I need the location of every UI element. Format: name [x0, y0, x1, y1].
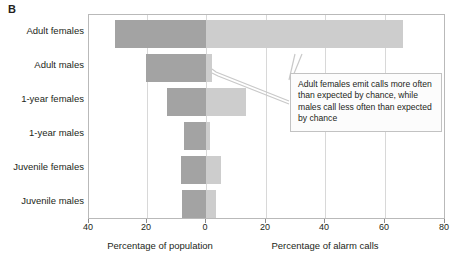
category-label-1-year-females: 1-year females	[0, 94, 84, 104]
x-axis-title-left: Percentage of population	[107, 241, 213, 251]
bar-alarm-calls-adult-females	[206, 20, 403, 48]
category-axis-labels: Adult females Adult males 1-year females…	[0, 14, 84, 219]
bar-population-1-year-males	[184, 122, 206, 150]
category-label-adult-females: Adult females	[0, 26, 84, 36]
bar-population-juvenile-males	[182, 190, 206, 218]
bar-population-1-year-females	[167, 88, 206, 116]
tick-label-minus-20: 20	[141, 223, 151, 232]
tick-label-40: 40	[319, 223, 329, 232]
bar-alarm-calls-adult-males	[206, 54, 212, 82]
bar-alarm-calls-1-year-females	[206, 88, 246, 116]
category-label-adult-males: Adult males	[0, 60, 84, 70]
bar-population-juvenile-females	[181, 156, 206, 184]
category-label-juvenile-females: Juvenile females	[0, 162, 84, 172]
tick-label-minus-40: 40	[83, 223, 93, 232]
tick-label-60: 60	[379, 223, 389, 232]
figure-panel-b: B Adult females Adult males 1-year femal…	[0, 0, 450, 262]
tick-label-zero: 0	[202, 223, 207, 232]
category-label-1-year-males: 1-year males	[0, 128, 84, 138]
x-axis-ticks: 40 20 0 20 40 60 80	[88, 219, 445, 235]
x-axis-title-right: Percentage of alarm calls	[271, 241, 378, 251]
tick-label-20: 20	[260, 223, 270, 232]
bar-population-adult-males	[146, 54, 206, 82]
bar-alarm-calls-juvenile-males	[206, 190, 216, 218]
bar-alarm-calls-juvenile-females	[206, 156, 221, 184]
bar-alarm-calls-1-year-males	[206, 122, 210, 150]
annotation-callout: Adult females emit calls more often than…	[290, 73, 442, 132]
tick-label-80: 80	[439, 223, 449, 232]
bar-population-adult-females	[115, 20, 206, 48]
category-label-juvenile-males: Juvenile males	[0, 196, 84, 206]
